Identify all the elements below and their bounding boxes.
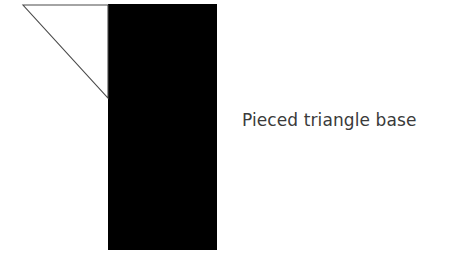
caption-label: Pieced triangle base xyxy=(242,107,452,133)
black-rectangle xyxy=(108,4,217,250)
diagram-svg xyxy=(0,0,462,267)
figure-canvas: Pieced triangle base xyxy=(0,0,462,267)
